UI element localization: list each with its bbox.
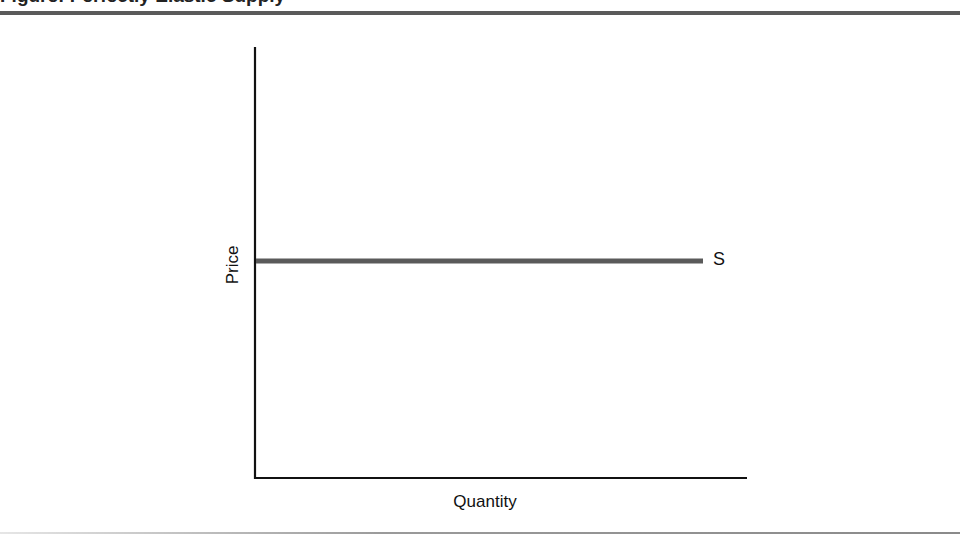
supply-label: S — [713, 249, 725, 269]
x-axis-label: Quantity — [453, 492, 517, 511]
bottom-rule — [0, 532, 960, 534]
y-axis-label: Price — [223, 246, 242, 285]
chart: S Quantity Price — [0, 0, 973, 538]
